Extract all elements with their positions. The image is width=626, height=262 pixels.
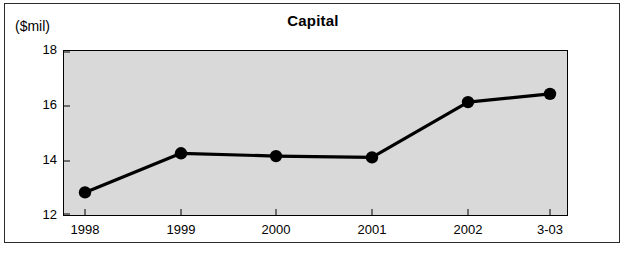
data-point-1998 — [79, 186, 91, 198]
x-tick-label-2002: 2002 — [454, 222, 483, 237]
data-line — [85, 94, 550, 192]
data-series-svg — [64, 51, 567, 215]
y-tick-14: 14 — [29, 153, 57, 166]
y-tick-18: 18 — [29, 43, 57, 56]
x-tick-label-1999: 1999 — [167, 222, 196, 237]
data-point-2001 — [366, 151, 378, 163]
x-axis-tick-labels: 1998 1999 2000 2001 2002 3-03 — [63, 222, 568, 242]
x-tick-label-3-03: 3-03 — [537, 222, 563, 237]
x-tick-label-2001: 2001 — [358, 222, 387, 237]
y-tick-12: 12 — [29, 208, 57, 221]
plot-area — [63, 50, 568, 216]
x-tick-label-2000: 2000 — [262, 222, 291, 237]
chart-title: Capital — [5, 12, 621, 29]
y-axis-tick-labels: 18 16 14 12 — [23, 50, 57, 216]
data-point-2000 — [270, 150, 282, 162]
data-point-1999 — [175, 147, 187, 159]
x-tick-label-1998: 1998 — [71, 222, 100, 237]
y-tick-16: 16 — [29, 98, 57, 111]
data-point-2002 — [462, 96, 474, 108]
data-point-3-03 — [544, 88, 556, 100]
capital-line-chart: ($mil) Capital 18 16 14 12 — [0, 0, 626, 262]
chart-frame: ($mil) Capital 18 16 14 12 — [4, 3, 620, 243]
